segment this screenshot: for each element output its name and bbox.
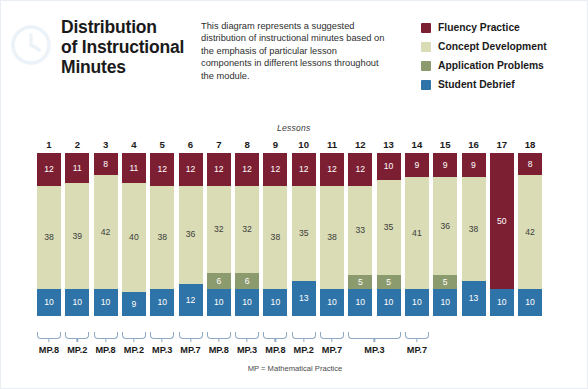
bar-column[interactable]: 121233510 <box>348 137 372 316</box>
bar-segment-concept: 36 <box>433 177 457 275</box>
legend: Fluency Practice Concept Development App… <box>421 18 586 94</box>
segment-value: 40 <box>129 233 139 242</box>
mp-group: MP.7 <box>405 332 429 355</box>
mp-label: MP.8 <box>37 345 61 355</box>
bar-column[interactable]: 71232610 <box>207 137 231 316</box>
segment-value: 12 <box>271 165 281 174</box>
segment-value: 12 <box>327 165 337 174</box>
bar-segment-concept: 38 <box>150 186 174 289</box>
bar-column[interactable]: 175010 <box>490 137 514 316</box>
bar-column[interactable]: 5123810 <box>150 137 174 316</box>
mp-group: MP.2 <box>65 332 89 355</box>
stacked-bar[interactable]: 93813 <box>462 153 486 316</box>
segment-value: 50 <box>497 217 507 226</box>
mp-label: MP.3 <box>150 345 174 355</box>
segment-value: 5 <box>386 278 391 287</box>
bar-segment-concept: 40 <box>122 183 146 292</box>
stacked-bar[interactable]: 113910 <box>65 153 89 316</box>
mp-group: MP.8 <box>263 332 287 355</box>
mp-bracket <box>150 332 174 339</box>
segment-value: 13 <box>299 294 309 303</box>
lesson-number: 3 <box>94 137 118 153</box>
bar-column[interactable]: 9123810 <box>263 137 287 316</box>
mp-label: MP.7 <box>405 345 429 355</box>
bar-segment-debrief: 10 <box>518 289 542 316</box>
segment-value: 6 <box>216 277 221 286</box>
segment-value: 38 <box>271 233 281 242</box>
mp-bracket <box>348 332 400 339</box>
stacked-bar[interactable]: 123810 <box>150 153 174 316</box>
lesson-number: 2 <box>65 137 89 153</box>
bar-column[interactable]: 1123810 <box>37 137 61 316</box>
bar-segment-debrief: 10 <box>320 289 344 316</box>
mp-label: MP.8 <box>94 345 118 355</box>
segment-value: 38 <box>44 233 54 242</box>
stacked-bar[interactable]: 123810 <box>37 153 61 316</box>
lesson-number: 6 <box>179 137 203 153</box>
bar-column[interactable]: 15936510 <box>433 137 457 316</box>
stacked-bar[interactable]: 1232610 <box>207 153 231 316</box>
bar-segment-application: 5 <box>348 275 372 289</box>
bar-segment-fluency: 10 <box>377 153 401 180</box>
segment-value: 11 <box>129 164 138 173</box>
legend-swatch-application-problems <box>421 61 431 71</box>
mp-label: MP.7 <box>179 345 203 355</box>
stacked-bar[interactable]: 936510 <box>433 153 457 316</box>
bar-column[interactable]: 10123513 <box>292 137 316 316</box>
bar-segment-fluency: 12 <box>292 153 316 186</box>
segment-value: 8 <box>103 160 108 169</box>
segment-value: 38 <box>157 233 167 242</box>
bar-segment-fluency: 12 <box>37 153 61 186</box>
stacked-bar[interactable]: 123612 <box>179 153 203 316</box>
legend-swatch-concept-development <box>421 42 431 52</box>
bar-column[interactable]: 6123612 <box>179 137 203 316</box>
segment-value: 9 <box>415 161 420 170</box>
x-axis-label: Lessons <box>277 123 310 133</box>
lesson-number: 14 <box>405 137 429 153</box>
bar-column[interactable]: 1884210 <box>518 137 542 316</box>
segment-value: 10 <box>101 298 111 307</box>
bar-column[interactable]: 384210 <box>94 137 118 316</box>
segment-value: 13 <box>469 294 479 303</box>
segment-value: 9 <box>471 161 476 170</box>
bar-column[interactable]: 81232610 <box>235 137 259 316</box>
mp-group: MP.8 <box>207 332 231 355</box>
legend-swatch-student-debrief <box>421 80 431 90</box>
stacked-bar[interactable]: 123810 <box>263 153 287 316</box>
lesson-number: 18 <box>518 137 542 153</box>
segment-value: 11 <box>73 164 82 173</box>
bar-segment-concept: 38 <box>462 177 486 280</box>
mp-group: MP.7 <box>320 332 344 355</box>
bar-column[interactable]: 11123810 <box>320 137 344 316</box>
segment-value: 10 <box>384 162 394 171</box>
mp-bracket <box>405 332 429 339</box>
bar-column[interactable]: 131035510 <box>377 137 401 316</box>
stacked-bar[interactable]: 5010 <box>490 153 514 316</box>
lesson-number: 9 <box>263 137 287 153</box>
segment-value: 38 <box>469 225 479 234</box>
bar-column[interactable]: 1494110 <box>405 137 429 316</box>
stacked-bar[interactable]: 123513 <box>292 153 316 316</box>
stacked-bar[interactable]: 11409 <box>122 153 146 316</box>
segment-value: 10 <box>497 298 507 307</box>
stacked-bar[interactable]: 123810 <box>320 153 344 316</box>
bar-column[interactable]: 411409 <box>122 137 146 316</box>
bar-column[interactable]: 1693813 <box>462 137 486 316</box>
segment-value: 10 <box>214 298 224 307</box>
bar-segment-concept: 39 <box>65 183 89 289</box>
page-title-line-2: of Instructional <box>61 37 193 57</box>
stacked-bar[interactable]: 1233510 <box>348 153 372 316</box>
mp-bracket <box>235 332 259 339</box>
stacked-bar[interactable]: 84210 <box>94 153 118 316</box>
segment-value: 5 <box>358 278 363 287</box>
mp-group: MP.3 <box>235 332 259 355</box>
bar-segment-fluency: 12 <box>235 153 259 186</box>
lesson-number: 11 <box>320 137 344 153</box>
lesson-number: 5 <box>150 137 174 153</box>
stacked-bar[interactable]: 1232610 <box>235 153 259 316</box>
stacked-bar[interactable]: 1035510 <box>377 153 401 316</box>
stacked-bar[interactable]: 94110 <box>405 153 429 316</box>
bar-segment-fluency: 12 <box>263 153 287 186</box>
stacked-bar[interactable]: 84210 <box>518 153 542 316</box>
bar-column[interactable]: 2113910 <box>65 137 89 316</box>
